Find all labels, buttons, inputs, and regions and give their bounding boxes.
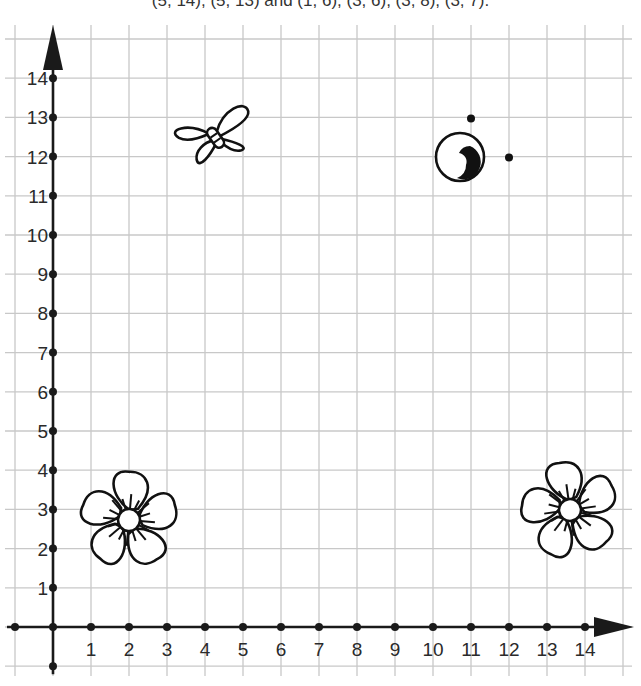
y-tick-label: 5 <box>37 421 48 442</box>
y-tick-dot <box>49 113 57 121</box>
y-tick-label: 9 <box>37 264 48 285</box>
y-tick-dot <box>49 545 57 553</box>
y-tick-dot <box>49 270 57 278</box>
y-tick-label: 1 <box>37 578 48 599</box>
tick-dot <box>49 662 57 670</box>
x-tick-dot <box>315 623 323 631</box>
y-axis-arrow-icon <box>43 25 63 70</box>
x-tick-label: 2 <box>124 639 135 660</box>
x-tick-label: 8 <box>352 639 363 660</box>
y-tick-dot <box>49 192 57 200</box>
coordinate-grid: 12345678910111213141234567891011121314 <box>0 0 641 686</box>
x-tick-label: 11 <box>461 639 481 660</box>
tick-dot <box>11 623 19 631</box>
x-tick-dot <box>201 623 209 631</box>
y-tick-label: 4 <box>37 460 48 481</box>
snail-icon <box>436 133 484 181</box>
x-tick-dot <box>125 623 133 631</box>
x-tick-label: 4 <box>200 639 211 660</box>
y-tick-label: 8 <box>37 303 48 324</box>
x-tick-label: 1 <box>86 639 97 660</box>
flower-right-icon <box>512 455 627 566</box>
y-tick-label: 10 <box>27 225 48 246</box>
x-tick-dot <box>429 623 437 631</box>
y-tick-dot <box>49 388 57 396</box>
x-tick-label: 9 <box>390 639 401 660</box>
x-tick-label: 3 <box>162 639 173 660</box>
butterfly-icon <box>174 90 265 176</box>
x-tick-dot <box>391 623 399 631</box>
x-tick-label: 12 <box>498 639 519 660</box>
y-tick-dot <box>49 427 57 435</box>
origin-dot <box>49 623 57 631</box>
y-tick-dot <box>49 309 57 317</box>
y-tick-dot <box>49 231 57 239</box>
x-tick-dot <box>239 623 247 631</box>
y-tick-dot <box>49 505 57 513</box>
x-tick-dot <box>163 623 171 631</box>
y-tick-dot <box>49 466 57 474</box>
x-tick-dot <box>467 623 475 631</box>
x-tick-dot <box>277 623 285 631</box>
x-tick-label: 14 <box>574 639 596 660</box>
y-tick-label: 14 <box>27 68 49 89</box>
y-tick-label: 12 <box>27 147 48 168</box>
x-tick-label: 6 <box>276 639 287 660</box>
y-tick-label: 2 <box>37 539 48 560</box>
plotted-point <box>505 154 513 162</box>
x-tick-dot <box>543 623 551 631</box>
y-tick-label: 3 <box>37 499 48 520</box>
x-tick-dot <box>505 623 513 631</box>
y-tick-dot <box>49 349 57 357</box>
y-tick-label: 13 <box>27 107 48 128</box>
x-tick-label: 13 <box>536 639 557 660</box>
x-tick-dot <box>87 623 95 631</box>
x-tick-dot <box>581 623 589 631</box>
x-tick-label: 10 <box>422 639 443 660</box>
x-axis-arrow-icon <box>594 617 634 637</box>
y-tick-label: 7 <box>37 343 48 364</box>
y-tick-label: 11 <box>28 186 48 207</box>
x-tick-dot <box>353 623 361 631</box>
plotted-point <box>467 114 475 122</box>
y-tick-label: 6 <box>37 382 48 403</box>
x-tick-label: 7 <box>314 639 325 660</box>
y-tick-dot <box>49 584 57 592</box>
y-tick-dot <box>49 74 57 82</box>
x-tick-label: 5 <box>238 639 249 660</box>
y-tick-dot <box>49 153 57 161</box>
